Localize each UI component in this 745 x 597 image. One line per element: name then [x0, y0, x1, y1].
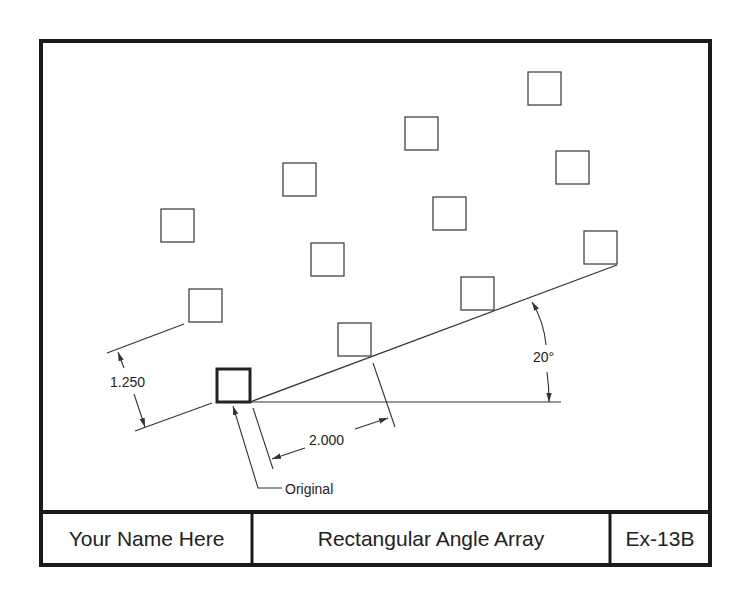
array-square [161, 209, 194, 242]
cad-drawing [0, 0, 745, 597]
angle-label: 20° [533, 349, 554, 365]
array-square [461, 277, 494, 310]
row-spacing-label: 1.250 [110, 374, 145, 390]
array-square [405, 117, 438, 150]
dimension-line [272, 448, 305, 459]
title-block-exercise-id: Ex-13B [612, 514, 708, 564]
extension-line [373, 363, 395, 427]
array-square [189, 289, 222, 322]
angle-dimension-arc-upper [532, 302, 546, 345]
extension-line [253, 408, 273, 469]
extension-line [107, 324, 184, 353]
array-square [528, 72, 561, 105]
column-spacing-label: 2.000 [309, 432, 344, 448]
array-square [283, 163, 316, 196]
array-square [584, 231, 617, 264]
title-block-title: Rectangular Angle Array [254, 514, 608, 564]
angle-dimension-arc-lower [547, 372, 549, 402]
original-leader-line [233, 406, 282, 488]
array-square [556, 151, 589, 184]
array-angle-line [250, 265, 617, 402]
array-square [311, 243, 344, 276]
extension-line [135, 403, 212, 431]
drawing-border [41, 41, 710, 565]
title-block-author: Your Name Here [43, 514, 250, 564]
array-square [433, 197, 466, 230]
dimension-line [355, 418, 388, 429]
array-square [338, 323, 371, 356]
original-square [217, 369, 250, 402]
original-label: Original [285, 481, 333, 497]
dimension-line [134, 394, 145, 427]
dimension-line [118, 352, 124, 368]
array-squares [161, 72, 617, 356]
